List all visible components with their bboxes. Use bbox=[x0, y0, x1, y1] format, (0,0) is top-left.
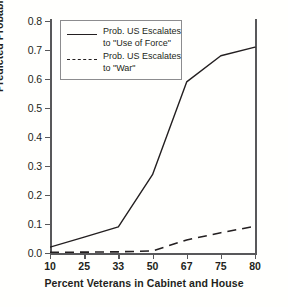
legend-item-war: Prob. US Escalates to "War" bbox=[67, 52, 179, 76]
x-tick-mark bbox=[153, 254, 154, 259]
series-war-line bbox=[50, 226, 255, 252]
chart-legend: Prob. US Escalates to "Use of Force" Pro… bbox=[60, 20, 182, 80]
x-tick-mark bbox=[50, 254, 51, 259]
legend-label-line1: Prob. US Escalates bbox=[103, 51, 181, 63]
x-axis-ticks: 10253350677580 bbox=[50, 254, 256, 276]
x-tick-mark bbox=[255, 254, 256, 259]
y-tick-label: 0.3 bbox=[28, 160, 42, 172]
x-tick-label: 10 bbox=[44, 260, 56, 272]
x-tick-label: 25 bbox=[78, 260, 90, 272]
x-tick-mark bbox=[84, 254, 85, 259]
legend-dashed-line-icon bbox=[67, 59, 97, 60]
x-tick-label: 50 bbox=[147, 260, 159, 272]
legend-label-use-of-force: Prob. US Escalates to "Use of Force" bbox=[103, 26, 181, 49]
y-tick-label: 0.1 bbox=[28, 218, 42, 230]
y-axis-title: Predicted Probability bbox=[0, 0, 5, 92]
x-tick-mark bbox=[187, 254, 188, 259]
legend-label-line1: Prob. US Escalates bbox=[103, 26, 181, 38]
legend-solid-line-icon bbox=[67, 34, 97, 35]
x-tick-mark bbox=[221, 254, 222, 259]
legend-item-use-of-force: Prob. US Escalates to "Use of Force" bbox=[67, 27, 179, 51]
x-tick-label: 80 bbox=[249, 260, 261, 272]
x-tick-label: 75 bbox=[215, 260, 227, 272]
y-tick-label: 0.2 bbox=[28, 189, 42, 201]
y-tick-label: 0.7 bbox=[28, 44, 42, 56]
chart-screenshot: Predicted Probability 0.00.10.20.30.40.5… bbox=[0, 0, 288, 307]
y-tick-label: 0.4 bbox=[28, 131, 42, 143]
y-tick-label: 0.6 bbox=[28, 73, 42, 85]
legend-label-line2: to "War" bbox=[103, 63, 181, 75]
y-tick-label: 0.0 bbox=[28, 247, 42, 259]
x-tick-label: 33 bbox=[112, 260, 124, 272]
y-tick-label: 0.8 bbox=[28, 15, 42, 27]
y-tick-label: 0.5 bbox=[28, 102, 42, 114]
legend-label-line2: to "Use of Force" bbox=[103, 38, 181, 50]
legend-label-war: Prob. US Escalates to "War" bbox=[103, 51, 181, 74]
x-axis-title: Percent Veterans in Cabinet and House bbox=[0, 277, 288, 289]
x-tick-mark bbox=[118, 254, 119, 259]
x-tick-label: 67 bbox=[181, 260, 193, 272]
